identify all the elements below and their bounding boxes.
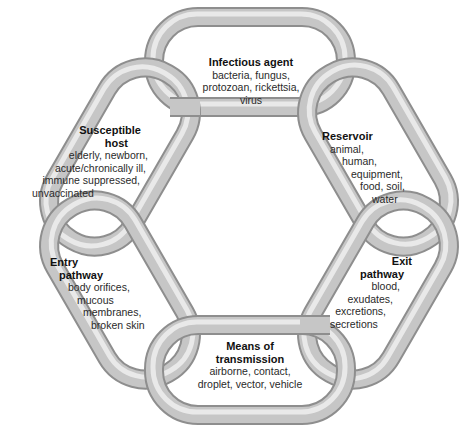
link-title: Susceptible [28,124,148,137]
label-means-of-transmission: Means of transmission airborne, contact,… [180,340,320,390]
link-text: mucous [50,294,160,307]
link-text: equipment, [322,168,432,181]
link-text: exudates, [330,293,412,306]
link-text: water [322,193,432,206]
label-infectious-agent: Infectious agent bacteria, fungus, proto… [186,56,316,106]
link-title: Infectious agent [186,56,316,69]
link-text: immune suppressed, [28,174,148,187]
link-text: excretions, [330,305,412,318]
link-title: host [28,137,148,150]
link-text: broken skin [50,319,160,332]
link-text: secretions [330,318,412,331]
label-susceptible-host: Susceptible host elderly, newborn, acute… [28,124,148,199]
link-title: transmission [180,353,320,366]
link-title: pathway [330,268,412,281]
link-text: bacteria, fungus, [186,69,316,82]
link-title: Reservoir [322,130,432,143]
link-text: acute/chronically ill, [28,162,148,175]
link-text: virus [186,94,316,107]
link-title: Entry [50,256,160,269]
link-text: elderly, newborn, [28,149,148,162]
link-text: food, soil, [322,180,432,193]
link-text: blood, [330,280,412,293]
label-entry-pathway: Entry pathway body orifices, mucous memb… [50,256,160,331]
link-text: protozoan, rickettsia, [186,81,316,94]
label-exit-pathway: Exit pathway blood, exudates, excretions… [330,255,412,330]
link-text: human, [322,155,432,168]
link-text: animal, [322,143,432,156]
label-reservoir: Reservoir animal, human, equipment, food… [322,130,432,205]
link-text: droplet, vector, vehicle [180,378,320,391]
link-text: unvaccinated [28,187,148,200]
link-title: Exit [330,255,412,268]
link-text: airborne, contact, [180,365,320,378]
link-text: body orifices, [50,281,160,294]
link-title: Means of [180,340,320,353]
link-text: membranes, [50,306,160,319]
link-title: pathway [50,269,160,282]
